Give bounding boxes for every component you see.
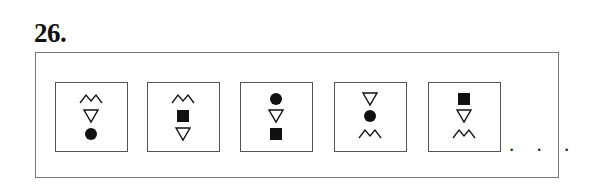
- zigzag-icon: [359, 130, 381, 138]
- triangle-down-icon: [363, 93, 377, 105]
- sequence-cell-2: [147, 82, 220, 152]
- circle-icon: [270, 93, 282, 105]
- cell-5-symbols: [429, 83, 499, 150]
- zigzag-icon: [172, 95, 194, 103]
- question-number: 26.: [34, 20, 66, 47]
- cell-1-symbols: [56, 83, 126, 150]
- sequence-cell-3: [240, 82, 313, 152]
- zigzag-icon: [453, 130, 475, 138]
- cell-4-symbols: [335, 83, 405, 150]
- cell-3-symbols: [241, 83, 311, 150]
- circle-icon: [85, 128, 97, 140]
- square-icon: [270, 128, 282, 140]
- zigzag-icon: [80, 95, 102, 103]
- sequence-cell-1: [55, 82, 128, 152]
- continuation-ellipsis: · · ·: [508, 138, 577, 160]
- square-icon: [458, 93, 470, 105]
- cell-2-symbols: [148, 83, 218, 150]
- sequence-cell-5: [428, 82, 501, 152]
- triangle-down-icon: [269, 110, 283, 122]
- circle-icon: [364, 110, 376, 122]
- square-icon: [177, 110, 189, 122]
- triangle-down-icon: [84, 110, 98, 122]
- triangle-down-icon: [457, 110, 471, 122]
- sequence-cell-4: [334, 82, 407, 152]
- triangle-down-icon: [176, 128, 190, 140]
